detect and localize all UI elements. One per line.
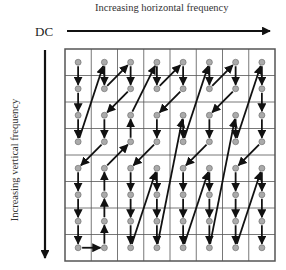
coefficient-dot — [180, 218, 186, 224]
coefficient-dot — [206, 112, 212, 118]
coefficient-dot — [154, 86, 160, 92]
coefficient-dot — [75, 218, 81, 224]
coefficient-dot — [180, 192, 186, 198]
coefficient-dot — [75, 139, 81, 145]
coefficient-dot — [180, 139, 186, 145]
coefficient-dot — [206, 192, 212, 198]
coefficient-dot — [206, 245, 212, 251]
coefficient-dot — [75, 245, 81, 251]
coefficient-dot — [128, 112, 134, 118]
coefficient-dot — [233, 59, 239, 65]
coefficient-dot — [206, 139, 212, 145]
coefficient-dot — [128, 218, 134, 224]
coefficient-dot — [75, 192, 81, 198]
coefficient-dot — [206, 86, 212, 92]
coefficient-dot — [233, 112, 239, 118]
coefficient-dot — [75, 59, 81, 65]
coefficient-dot — [259, 218, 265, 224]
coefficient-dot — [259, 165, 265, 171]
coefficient-dot — [233, 218, 239, 224]
coefficient-dot — [154, 165, 160, 171]
coefficient-dot — [233, 165, 239, 171]
coefficient-dot — [128, 245, 134, 251]
coefficient-dot — [154, 218, 160, 224]
coefficient-dot — [128, 59, 134, 65]
coefficient-dot — [233, 192, 239, 198]
coefficient-grid — [65, 49, 275, 261]
coefficient-dot — [233, 245, 239, 251]
coefficient-dot — [259, 112, 265, 118]
coefficient-dot — [259, 86, 265, 92]
coefficient-dot — [101, 86, 107, 92]
coefficient-dot — [206, 218, 212, 224]
coefficient-dot — [128, 192, 134, 198]
coefficient-dot — [101, 165, 107, 171]
coefficient-dot — [180, 112, 186, 118]
coefficient-dot — [101, 245, 107, 251]
coefficient-dot — [233, 86, 239, 92]
coefficient-dot — [101, 218, 107, 224]
coefficient-dot — [128, 86, 134, 92]
coefficient-dot — [180, 245, 186, 251]
coefficient-dot — [128, 165, 134, 171]
coefficient-dot — [154, 139, 160, 145]
coefficient-dot — [206, 165, 212, 171]
coefficient-dot — [75, 165, 81, 171]
coefficient-dot — [180, 59, 186, 65]
coefficient-dot — [75, 86, 81, 92]
coefficient-dot — [259, 139, 265, 145]
coefficient-dot — [180, 165, 186, 171]
coefficient-dot — [259, 59, 265, 65]
coefficient-dot — [101, 59, 107, 65]
coefficient-dot — [233, 139, 239, 145]
coefficient-dot — [206, 59, 212, 65]
coefficient-dot — [259, 192, 265, 198]
coefficient-dot — [180, 86, 186, 92]
coefficient-dot — [259, 245, 265, 251]
coefficient-dot — [128, 139, 134, 145]
coefficient-dot — [75, 112, 81, 118]
coefficient-dot — [154, 245, 160, 251]
coefficient-dot — [154, 192, 160, 198]
coefficient-dot — [101, 112, 107, 118]
coefficient-dot — [101, 192, 107, 198]
coefficient-dot — [154, 59, 160, 65]
coefficient-dot — [154, 112, 160, 118]
zigzag-scan-diagram — [0, 0, 286, 270]
coefficient-dot — [101, 139, 107, 145]
